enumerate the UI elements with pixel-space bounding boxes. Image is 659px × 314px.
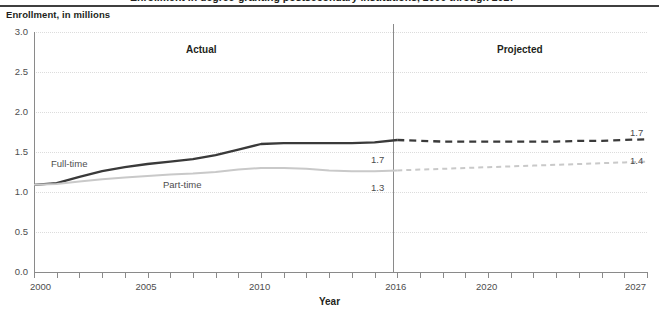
series-line-projected-part-time xyxy=(397,162,647,171)
series-label-full-time: Full-time xyxy=(51,158,87,169)
series-line-actual-full-time xyxy=(34,140,397,185)
series-lines xyxy=(0,0,659,314)
chart-page: Enrollment in degree-granting postsecond… xyxy=(0,0,659,314)
x-axis-title: Year xyxy=(0,296,659,307)
divider-value-full-time: 1.7 xyxy=(371,154,384,165)
series-line-projected-full-time xyxy=(397,139,647,141)
series-line-actual-part-time xyxy=(34,168,397,185)
end-value-part-time: 1.4 xyxy=(630,155,643,166)
series-label-part-time: Part-time xyxy=(163,179,202,190)
divider-value-part-time: 1.3 xyxy=(371,182,384,193)
end-value-full-time: 1.7 xyxy=(630,127,643,138)
